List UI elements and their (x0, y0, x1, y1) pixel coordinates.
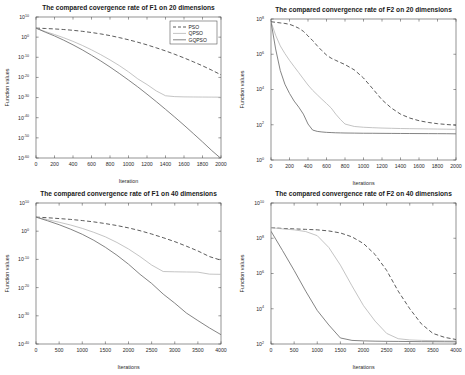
y-axis-label: Function values (4, 254, 10, 292)
x-tick-label: 3000 (404, 347, 416, 353)
x-axis-label: Iteration (119, 178, 138, 184)
y-axis-label: Function values (4, 68, 10, 106)
y-tick-label: 10-20 (18, 74, 29, 80)
x-tick-label: 1800 (197, 161, 209, 167)
y-tick-label: 10-30 (18, 312, 29, 318)
x-tick-label: 2500 (146, 347, 158, 353)
x-tick-label: 0 (270, 347, 273, 353)
series-line-gqpso (271, 231, 456, 342)
x-tick-label: 500 (55, 347, 64, 353)
series-line-gqpso (36, 28, 221, 158)
x-tick-label: 1400 (160, 161, 172, 167)
y-tick-label: 10-40 (18, 114, 29, 120)
x-tick-label: 2500 (381, 347, 393, 353)
y-tick-label: 1010 (19, 200, 29, 206)
y-tick-label: 10-60 (18, 155, 29, 161)
series-line-pso (271, 22, 456, 125)
x-tick-label: 1000 (123, 161, 135, 167)
x-tick-label: 2000 (123, 347, 135, 353)
plot-frame (271, 203, 456, 344)
y-tick-label: 1010 (19, 14, 29, 20)
x-tick-label: 1000 (358, 163, 370, 169)
x-tick-label: 4000 (215, 347, 227, 353)
chart-f1-20d: The compared covergence rate of F1 on 20… (0, 0, 230, 189)
plot-frame (271, 19, 456, 160)
y-tick-label: 102 (256, 121, 264, 127)
y-tick-label: 108 (256, 235, 264, 241)
chart-title: The compared convergence rate of F2 on 2… (275, 6, 452, 14)
series-line-qpso (271, 228, 456, 341)
x-tick-label: 600 (87, 161, 96, 167)
x-tick-label: 1500 (335, 347, 347, 353)
x-tick-label: 0 (270, 163, 273, 169)
x-tick-label: 3500 (427, 347, 439, 353)
y-tick-label: 10-50 (18, 134, 29, 140)
x-tick-label: 3000 (169, 347, 181, 353)
figure-panel-grid: The compared covergence rate of F1 on 20… (0, 0, 465, 375)
legend-label-pso: PSO (189, 24, 200, 30)
y-tick-label: 100 (21, 228, 29, 234)
chart-f1-40d: The compared convergence rate of F1 on 4… (0, 186, 230, 375)
x-tick-label: 1800 (432, 163, 444, 169)
chart-f2-20d: The compared convergence rate of F2 on 2… (235, 2, 465, 191)
series-line-qpso (271, 22, 456, 130)
y-tick-label: 102 (256, 341, 264, 347)
x-tick-label: 1200 (376, 163, 388, 169)
chart-title: The compared convergence rate of F2 on 4… (275, 190, 452, 198)
chart-title: The compared covergence rate of F1 on 20… (42, 4, 215, 12)
y-tick-label: 10-40 (18, 341, 29, 347)
x-tick-label: 200 (50, 161, 59, 167)
chart-f2-40d: The compared convergence rate of F2 on 4… (235, 186, 465, 375)
y-tick-label: 106 (256, 270, 264, 276)
series-line-qpso (36, 217, 221, 274)
legend-label-gqpso: GQPSO (189, 37, 207, 43)
x-tick-label: 1600 (413, 163, 425, 169)
x-tick-label: 1200 (141, 161, 153, 167)
x-tick-label: 1000 (76, 347, 88, 353)
y-tick-label: 104 (256, 305, 264, 311)
x-tick-label: 400 (69, 161, 78, 167)
x-axis-label: Iterations (352, 364, 374, 370)
series-line-pso (271, 228, 456, 340)
y-tick-label: 1010 (254, 200, 264, 206)
x-tick-label: 1000 (311, 347, 323, 353)
x-tick-label: 0 (35, 347, 38, 353)
y-tick-label: 100 (21, 34, 29, 40)
x-tick-label: 400 (304, 163, 313, 169)
chart-title: The compared convergence rate of F1 on 4… (40, 190, 217, 198)
y-tick-label: 10-10 (18, 256, 29, 262)
x-tick-label: 3500 (192, 347, 204, 353)
y-tick-label: 106 (256, 51, 264, 57)
x-tick-label: 200 (285, 163, 294, 169)
y-tick-label: 10-30 (18, 94, 29, 100)
x-tick-label: 500 (290, 347, 299, 353)
x-tick-label: 1400 (395, 163, 407, 169)
y-tick-label: 100 (256, 157, 264, 163)
x-axis-label: Iterations (117, 364, 139, 370)
plot-frame (36, 203, 221, 344)
x-tick-label: 0 (35, 161, 38, 167)
legend-label-qpso: QPSO (189, 30, 204, 36)
y-tick-label: 104 (256, 86, 264, 92)
series-line-gqpso (36, 217, 221, 335)
x-tick-label: 600 (322, 163, 331, 169)
x-tick-label: 2000 (215, 161, 227, 167)
x-tick-label: 800 (341, 163, 350, 169)
x-tick-label: 800 (106, 161, 115, 167)
y-axis-label: Function values (239, 254, 245, 292)
x-tick-label: 2000 (450, 163, 462, 169)
x-tick-label: 2000 (358, 347, 370, 353)
x-tick-label: 1500 (100, 347, 112, 353)
y-tick-label: 10-10 (18, 54, 29, 60)
y-axis-label: Function values (239, 70, 245, 108)
x-tick-label: 1600 (178, 161, 190, 167)
x-tick-label: 4000 (450, 347, 462, 353)
y-tick-label: 10-20 (18, 284, 29, 290)
y-tick-label: 108 (256, 16, 264, 22)
